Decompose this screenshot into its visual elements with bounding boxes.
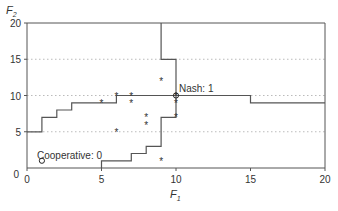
x-tick-label: 0 [24,174,30,185]
star-marker: * [114,127,118,138]
y-tick-label: 20 [10,18,22,29]
star-marker: * [159,76,163,87]
x-tick-label: 10 [170,174,182,185]
y-tick-label: 5 [15,127,21,138]
star-marker: * [100,98,104,109]
y-tick-label: 10 [10,91,22,102]
x-tick-label: 20 [319,174,331,185]
y-axis-label: F2 [6,4,17,18]
chart-container: 0510152005101520 ************ F2 F1 Nash… [0,0,338,211]
x-axis-label: F1 [170,188,181,202]
star-marker: * [114,91,118,102]
cooperative-annotation: Cooperative: 0 [37,150,102,161]
star-marker: * [174,112,178,123]
y-tick-label: 0 [13,169,19,180]
chart-svg: 0510152005101520 ************ F2 F1 Nash… [0,0,338,211]
star-marker: * [159,156,163,167]
y-tick-label: 15 [10,54,22,65]
x-tick-label: 15 [245,174,257,185]
x-tick-label: 5 [99,174,105,185]
star-marker: * [129,98,133,109]
nash-annotation: Nash: 1 [179,83,214,94]
star-marker: * [144,120,148,131]
star-marker: * [174,91,178,102]
